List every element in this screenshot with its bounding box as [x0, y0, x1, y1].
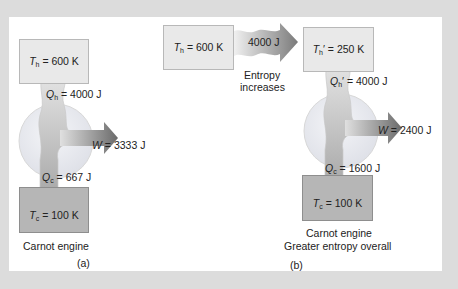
symbol: Q — [46, 88, 54, 100]
symbol: Q — [330, 75, 338, 87]
source-temp-b: = 600 K — [187, 41, 224, 53]
heat-in-label-b: Qh′ = 4000 J — [330, 75, 388, 88]
value: = 4000 J — [347, 75, 388, 87]
subscript: c — [333, 168, 337, 175]
cold-reservoir-b: Tc = 100 K — [302, 175, 373, 221]
hot-reservoir-b: Th′ = 250 K — [303, 27, 374, 72]
value: = 4000 J — [61, 88, 102, 100]
transfer-amount-b: 4000 J — [248, 36, 280, 48]
hot-temp-b: = 250 K — [328, 43, 365, 55]
source-reservoir-b: Th = 600 K — [163, 25, 234, 70]
value: = 1600 J — [340, 162, 381, 174]
subscript: c — [50, 177, 54, 184]
hot-reservoir-a: Th = 600 K — [19, 39, 89, 84]
transfer-caption-line1: Entropy — [244, 69, 280, 81]
panel-label-a: (a) — [77, 257, 90, 269]
caption-a: Carnot engine — [23, 240, 89, 252]
value: = 2400 J — [391, 124, 432, 136]
caption-b-line2: Greater entropy overall — [284, 240, 391, 252]
caption-b-line1: Carnot engine — [306, 227, 372, 239]
symbol: Q — [325, 162, 333, 174]
symbol: Q — [42, 171, 50, 183]
work-label-a: W = 3333 J — [92, 139, 145, 151]
hot-temp-a: = 600 K — [42, 55, 79, 67]
heat-out-label-b: Qc = 1600 J — [325, 162, 380, 175]
work-label-b: W = 2400 J — [378, 124, 431, 136]
prime: ′ — [342, 75, 344, 87]
subscript: h — [54, 94, 58, 101]
prime: ′ — [323, 43, 325, 55]
cold-temp-b: = 100 K — [326, 197, 363, 209]
cold-reservoir-a: Tc = 100 K — [19, 187, 89, 233]
subscript: h — [180, 47, 184, 54]
heat-in-label-a: Qh = 4000 J — [46, 88, 102, 101]
value: = 3333 J — [105, 139, 146, 151]
cold-temp-a: = 100 K — [42, 209, 79, 221]
symbol: W — [92, 139, 102, 151]
subscript: h — [36, 61, 40, 68]
subscript: c — [319, 203, 323, 210]
subscript: c — [36, 215, 40, 222]
heat-out-label-a: Qc = 667 J — [42, 171, 91, 184]
transfer-caption-line2: increases — [240, 81, 285, 93]
panel-label-b: (b) — [290, 259, 303, 271]
symbol: W — [378, 124, 388, 136]
diagram: Th = 600 K Qh = 4000 J W = 3333 J Qc = 6… — [0, 0, 458, 289]
value: = 667 J — [57, 171, 92, 183]
